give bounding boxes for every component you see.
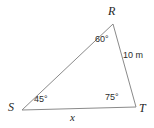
angle-label-r: 60°: [95, 35, 109, 44]
vertex-label-t: T: [139, 102, 146, 114]
triangle-shape: [0, 0, 154, 128]
side-label-rt: 10 m: [123, 51, 143, 60]
vertex-label-r: R: [108, 5, 115, 17]
angle-label-s: 45°: [34, 95, 48, 104]
geometry-figure: R S T 60° 45° 75° 10 m x: [0, 0, 154, 128]
vertex-label-s: S: [8, 101, 14, 113]
angle-label-t: 75°: [105, 93, 119, 102]
side-label-st: x: [70, 112, 75, 123]
